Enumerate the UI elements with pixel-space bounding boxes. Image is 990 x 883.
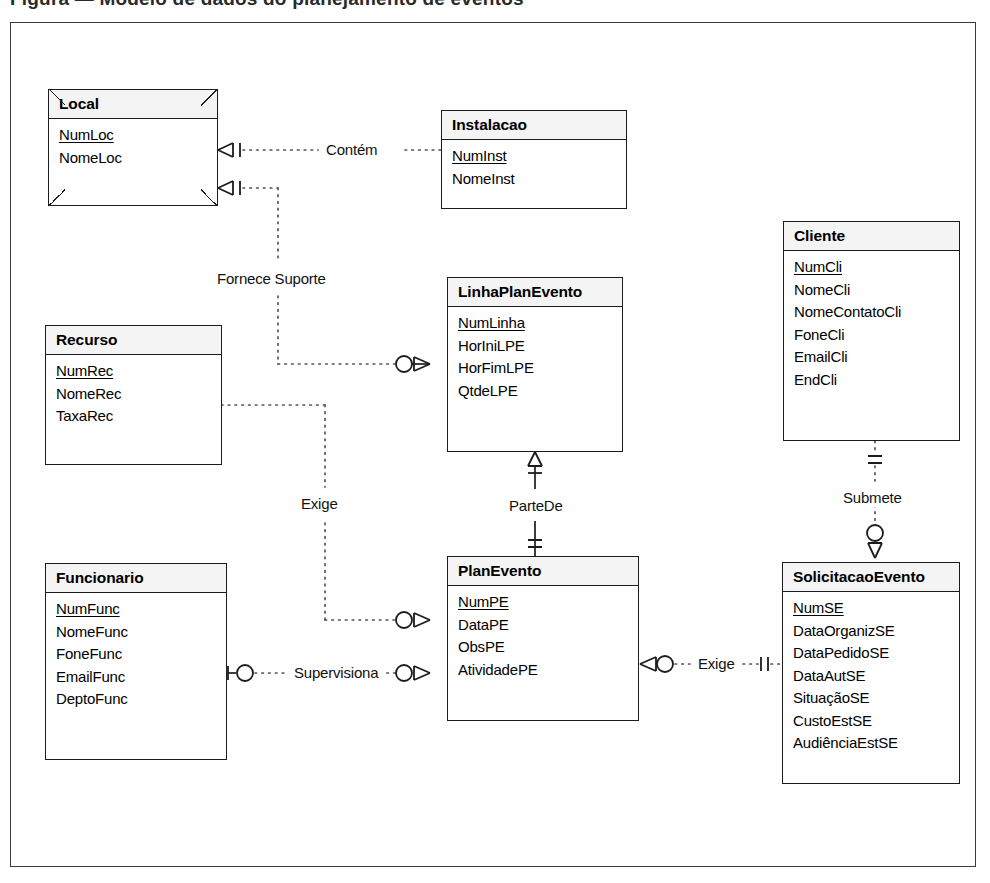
attribute: DataOrganizSE [793,620,959,643]
attribute: NumLoc [59,124,217,147]
attribute: ObsPE [458,636,638,659]
attribute: AtividadePE [458,659,638,682]
entity-cliente-attributes: NumCli NomeCli NomeContatoCli FoneCli Em… [784,251,959,398]
rel-label-submete: Submete [838,489,907,507]
top-caption-fragment: Figura — Modelo de dados do planejamento… [0,0,990,14]
entity-instalacao-title: Instalacao [442,111,626,140]
attribute: AudiênciaEstSE [793,732,959,755]
attribute: NomeLoc [59,147,217,170]
attribute: TaxaRec [56,405,221,428]
top-caption-text: Figura — Modelo de dados do planejamento… [10,0,524,10]
rel-label-exige-solicitacao: Exige [693,655,740,673]
attribute: CustoEstSE [793,710,959,733]
attribute: NumInst [452,145,626,168]
entity-recurso-attributes: NumRec NomeRec TaxaRec [46,355,221,435]
rel-label-supervisiona: Supervisiona [289,664,383,682]
rel-label-partede: ParteDe [504,497,568,515]
attribute: HorFimLPE [458,357,622,380]
entity-cliente-title: Cliente [784,222,959,251]
rel-label-fornece-suporte: Fornece Suporte [212,270,331,288]
entity-funcionario-title: Funcionario [46,564,226,593]
attribute: NomeContatoCli [794,301,959,324]
entity-recurso[interactable]: Recurso NumRec NomeRec TaxaRec [45,325,222,465]
attribute: NumFunc [56,598,226,621]
entity-solicitacaoevento-title: SolicitacaoEvento [783,563,959,592]
entity-solicitacaoevento-attributes: NumSE DataOrganizSE DataPedidoSE DataAut… [783,592,959,762]
entity-funcionario-attributes: NumFunc NomeFunc FoneFunc EmailFunc Dept… [46,593,226,718]
attribute: NumPE [458,591,638,614]
entity-solicitacaoevento[interactable]: SolicitacaoEvento NumSE DataOrganizSE Da… [782,562,960,784]
entity-local-attributes: NumLoc NomeLoc [49,119,217,176]
rel-label-exige-recurso: Exige [296,495,343,513]
attribute: FoneFunc [56,643,226,666]
attribute: NomeCli [794,279,959,302]
entity-instalacao-attributes: NumInst NomeInst [442,140,626,197]
er-diagram-canvas: Figura — Modelo de dados do planejamento… [0,0,990,883]
attribute: FoneCli [794,324,959,347]
attribute: NumLinha [458,312,622,335]
attribute: HorIniLPE [458,335,622,358]
entity-linhaplanevento-title: LinhaPlanEvento [448,278,622,307]
attribute: NomeFunc [56,621,226,644]
entity-funcionario[interactable]: Funcionario NumFunc NomeFunc FoneFunc Em… [45,563,227,760]
attribute: EmailCli [794,346,959,369]
attribute: DataAutSE [793,665,959,688]
attribute: DeptoFunc [56,688,226,711]
entity-planevento-title: PlanEvento [448,557,638,586]
attribute: NomeRec [56,383,221,406]
attribute: DataPE [458,614,638,637]
entity-planevento[interactable]: PlanEvento NumPE DataPE ObsPE AtividadeP… [447,556,639,721]
attribute: NumCli [794,256,959,279]
entity-local-title: Local [49,90,217,119]
attribute: NumSE [793,597,959,620]
attribute: EmailFunc [56,666,226,689]
attribute: EndCli [794,369,959,392]
attribute: NumRec [56,360,221,383]
rel-label-contem: Contém [321,141,382,159]
entity-linhaplanevento-attributes: NumLinha HorIniLPE HorFimLPE QtdeLPE [448,307,622,409]
attribute: DataPedidoSE [793,642,959,665]
entity-recurso-title: Recurso [46,326,221,355]
entity-local[interactable]: Local NumLoc NomeLoc [48,89,218,206]
entity-cliente[interactable]: Cliente NumCli NomeCli NomeContatoCli Fo… [783,221,960,441]
attribute: NomeInst [452,168,626,191]
attribute: QtdeLPE [458,380,622,403]
entity-linhaplanevento[interactable]: LinhaPlanEvento NumLinha HorIniLPE HorFi… [447,277,623,452]
entity-planevento-attributes: NumPE DataPE ObsPE AtividadePE [448,586,638,688]
attribute: SituaçãoSE [793,687,959,710]
entity-instalacao[interactable]: Instalacao NumInst NomeInst [441,110,627,209]
